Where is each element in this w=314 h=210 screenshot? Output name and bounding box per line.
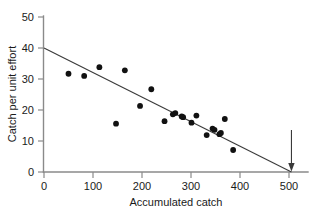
data-point (212, 127, 218, 133)
y-tick-label-50: 50 (22, 11, 34, 23)
chart-canvas: 50 40 30 20 10 0 0 100 200 300 400 500 A… (0, 0, 314, 210)
x-tick-label-0: 0 (41, 180, 47, 192)
data-point (193, 113, 199, 119)
y-tick-label-10: 10 (22, 135, 34, 147)
scatter-marker-group (66, 64, 236, 153)
arrow-head-icon (288, 163, 294, 172)
data-point (66, 71, 72, 77)
data-point (81, 73, 87, 79)
y-tick-label-0: 0 (28, 166, 34, 178)
x-tick-label-500: 500 (280, 180, 298, 192)
data-point (180, 114, 186, 120)
y-tick-label-20: 20 (22, 104, 34, 116)
x-tick-label-100: 100 (84, 180, 102, 192)
y-tick-label-30: 30 (22, 73, 34, 85)
x-tick-label-200: 200 (133, 180, 151, 192)
x-tick-label-400: 400 (231, 180, 249, 192)
data-point (122, 67, 128, 73)
data-point (230, 147, 236, 153)
y-axis-title: Catch per unit effort (6, 46, 18, 142)
data-point (162, 118, 168, 124)
data-point (148, 86, 154, 92)
data-point (222, 116, 228, 122)
data-point (96, 64, 102, 70)
data-point (172, 110, 178, 116)
y-tick-label-40: 40 (22, 42, 34, 54)
x-axis-ticks (44, 172, 289, 178)
scatter-plot-figure: 50 40 30 20 10 0 0 100 200 300 400 500 A… (0, 0, 314, 210)
data-point (113, 121, 119, 127)
data-point (204, 132, 210, 138)
data-point (189, 120, 195, 126)
x-axis-title: Accumulated catch (130, 196, 223, 208)
x-intercept-arrow-annotation (288, 130, 294, 172)
x-tick-label-300: 300 (182, 180, 200, 192)
data-point (137, 103, 143, 109)
regression-line (44, 48, 291, 172)
data-point (218, 130, 224, 136)
